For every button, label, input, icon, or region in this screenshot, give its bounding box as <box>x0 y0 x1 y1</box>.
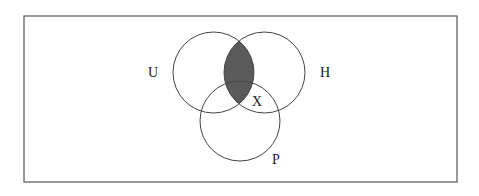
label-p: P <box>272 152 280 167</box>
label-x: X <box>252 94 262 109</box>
label-u: U <box>148 65 158 80</box>
venn-diagram: U H P X <box>0 0 479 196</box>
label-h: H <box>320 65 330 80</box>
